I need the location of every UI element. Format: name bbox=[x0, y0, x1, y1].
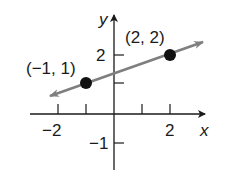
y-ticks bbox=[114, 55, 124, 143]
coordinate-plane: −2 2 2 −1 x y (−1, 1) (2, 2) bbox=[0, 0, 229, 170]
y-axis-label: y bbox=[98, 10, 109, 29]
point-neg1-1 bbox=[80, 77, 92, 89]
tick-label-x-2: 2 bbox=[165, 121, 174, 140]
tick-label-y-neg1: −1 bbox=[89, 134, 108, 153]
tick-label-x-neg2: −2 bbox=[42, 121, 61, 140]
tick-label-y-2: 2 bbox=[96, 46, 105, 65]
point-label-neg1-1: (−1, 1) bbox=[26, 59, 76, 78]
x-axis-label: x bbox=[199, 121, 209, 140]
point-label-2-2: (2, 2) bbox=[125, 28, 165, 47]
point-2-2 bbox=[164, 49, 176, 61]
